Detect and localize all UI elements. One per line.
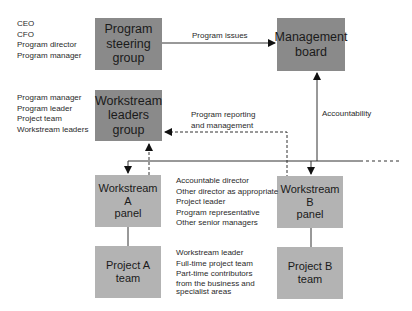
member-item: CEO [17,19,81,30]
workstream-b-panel-box: Workstream B panel [277,176,343,228]
project-b-team-label: Project B team [288,260,333,285]
project-a-team-label: Project A team [106,259,150,284]
member-item: Other director as appropriate [176,187,278,198]
workstream-leaders-group-box: Workstream leaders group [95,90,162,141]
management-board-box: Management board [277,18,345,71]
program-steering-group-box: Program steering group [95,18,162,70]
member-item: Part-time contributors [176,269,255,280]
accountability-label: Accountability [322,109,371,120]
team-members-list: Workstream leader Full-time project team… [176,248,255,297]
workstream-b-panel-label: Workstream B panel [277,183,343,221]
member-item: Program representative [176,208,278,219]
member-item: Workstream leaders [17,125,88,136]
member-item: Program manager [17,93,88,104]
member-item: CFO [17,30,81,41]
panel-members-list: Accountable director Other director as a… [176,176,278,229]
workstream-a-panel-box: Workstream A panel [95,175,161,227]
program-issues-label: Program issues [192,31,248,42]
program-reporting-line1: Program reporting [191,110,255,121]
steering-members-list: CEO CFO Program director Program manager [17,19,81,61]
leaders-members-list: Program manager Program leader Project t… [17,93,88,135]
workstream-a-panel-label: Workstream A panel [95,182,161,220]
member-item: Program director [17,40,81,51]
member-item: Project leader [176,197,278,208]
member-item: Project team [17,114,88,125]
management-board-label: Management board [275,30,348,59]
workstream-leaders-group-label: Workstream leaders group [95,94,162,137]
member-item: Program manager [17,51,81,62]
member-item: specialist areas [176,288,255,297]
project-a-team-box: Project A team [95,246,161,298]
program-reporting-label: Program reporting and management [191,110,255,131]
member-item: Accountable director [176,176,278,187]
member-item: Program leader [17,104,88,115]
program-reporting-line2: and management [191,121,255,132]
member-item: Other senior managers [176,218,278,229]
program-steering-group-label: Program steering group [105,22,153,65]
member-item: Workstream leader [176,248,255,259]
member-item: Full-time project team [176,259,255,270]
project-b-team-box: Project B team [277,247,343,299]
